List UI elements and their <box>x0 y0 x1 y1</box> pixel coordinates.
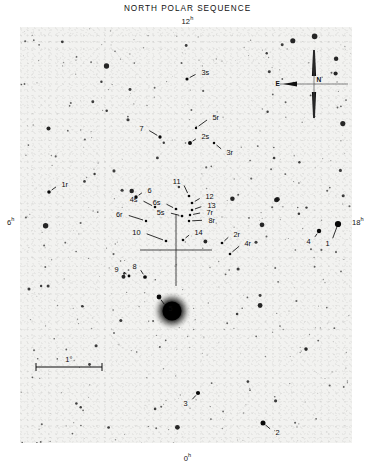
leader-line <box>199 120 207 126</box>
star-label-3: 3 <box>183 399 187 408</box>
leader-line <box>217 145 222 149</box>
compass-rose: NE <box>276 50 348 118</box>
star-label-11: 11 <box>173 177 181 186</box>
leader-line <box>124 272 127 274</box>
star-label-5r: 5r <box>213 113 220 122</box>
astronomical-plate-figure: NORTH POLAR SEQUENCE 12h 6h 18h 0h 3s5r7… <box>0 0 375 472</box>
leader-line <box>224 237 228 241</box>
star-label-8: 8 <box>132 262 136 271</box>
star-label-2: 2 <box>276 428 280 437</box>
axis-marker-left: 6h <box>7 216 14 227</box>
leader-line <box>52 187 56 190</box>
star-label-6s: 6s <box>153 198 161 207</box>
leader-line <box>232 246 239 252</box>
leader-line <box>192 395 196 399</box>
star-label-10: 10 <box>132 228 140 237</box>
axis-marker-top: 12h <box>0 15 375 26</box>
star-label-2s: 2s <box>202 132 210 141</box>
star-label-5: 5 <box>169 304 173 313</box>
star-label-6: 6 <box>148 186 152 195</box>
leader-line <box>193 213 200 214</box>
star-label-14: 14 <box>195 228 203 237</box>
star-label-4r: 4r <box>245 239 252 248</box>
leader-line <box>195 199 200 202</box>
star-label-1: 1 <box>325 239 329 248</box>
leader-line <box>184 186 188 194</box>
star-label-8r: 8r <box>209 216 216 225</box>
leader-line <box>139 193 142 195</box>
star-label-4: 4 <box>306 237 310 246</box>
leader-line <box>190 74 196 77</box>
star-label-2r: 2r <box>234 230 241 239</box>
star-label-3s: 3s <box>202 68 210 77</box>
leader-line <box>333 227 337 238</box>
leader-line <box>315 234 317 237</box>
leader-line <box>147 234 163 240</box>
leader-line <box>141 270 144 274</box>
star-label-3r: 3r <box>227 148 234 157</box>
leader-line <box>186 235 190 238</box>
leader-line <box>149 131 157 136</box>
annotation-overlay: 3s5r72s3r1r611124s6s137r5s6r8r10142r4r41… <box>20 27 352 443</box>
star-label-4s: 4s <box>130 195 138 204</box>
star-label-5s: 5s <box>157 208 165 217</box>
leader-line <box>192 220 202 221</box>
star-label-12: 12 <box>206 192 214 201</box>
leader-line <box>266 425 271 429</box>
scale-bar-label: 1° <box>65 355 72 364</box>
star-label-9: 9 <box>114 265 118 274</box>
leader-line <box>129 216 143 221</box>
star-label-1r: 1r <box>62 180 69 189</box>
leader-line <box>167 204 174 207</box>
compass-north-label: N <box>317 76 322 83</box>
leader-line <box>144 201 153 205</box>
compass-east-label: E <box>276 80 281 87</box>
axis-marker-bottom: 0h <box>0 452 375 463</box>
star-label-6r: 6r <box>116 210 123 219</box>
axis-marker-right: 18h <box>352 216 364 227</box>
leader-line <box>161 300 164 304</box>
star-label-7: 7 <box>139 124 143 133</box>
page-title: NORTH POLAR SEQUENCE <box>0 4 375 13</box>
leader-line <box>171 213 179 215</box>
photographic-plate: 3s5r72s3r1r611124s6s137r5s6r8r10142r4r41… <box>20 27 352 443</box>
leader-line <box>195 207 201 209</box>
leader-line <box>193 139 196 141</box>
